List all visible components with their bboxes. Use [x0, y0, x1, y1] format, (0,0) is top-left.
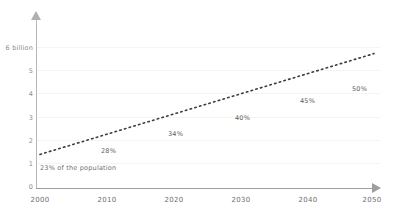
x-tick-2040: 2040 [298, 196, 317, 204]
y-tick-1: 1 [29, 160, 33, 168]
annotation-2030: 40% [235, 114, 250, 122]
plot-area [36, 20, 382, 188]
y-tick-6: 6 billion [6, 44, 33, 52]
y-tick-2: 2 [29, 137, 33, 145]
annotation-2020: 34% [168, 130, 183, 138]
annotation-2050: 50% [352, 85, 367, 93]
y-tick-0: 0 [29, 183, 33, 191]
annotation-2040: 45% [300, 97, 315, 105]
gridline-6 [36, 47, 380, 48]
x-tick-2050: 2050 [362, 196, 381, 204]
y-axis-line [36, 18, 37, 188]
y-tick-5: 5 [29, 67, 33, 75]
gridline-5 [36, 70, 380, 71]
y-axis-tick-labels: 6 billion 5 4 3 2 1 0 [0, 0, 33, 216]
gridline-3 [36, 117, 380, 118]
x-axis-line [36, 188, 374, 189]
x-tick-2030: 2030 [231, 196, 250, 204]
annotation-2010: 28% [101, 147, 116, 155]
y-tick-4: 4 [29, 90, 33, 98]
annotation-2000: 23% of the population [40, 164, 116, 172]
population-growth-chart: 6 billion 5 4 3 2 1 0 2000 2010 2020 203… [0, 0, 394, 216]
x-tick-2010: 2010 [97, 196, 116, 204]
x-tick-2020: 2020 [164, 196, 183, 204]
x-axis-arrow-icon [372, 183, 381, 193]
x-tick-2000: 2000 [30, 196, 49, 204]
gridline-2 [36, 140, 380, 141]
gridline-4 [36, 93, 380, 94]
y-tick-3: 3 [29, 114, 33, 122]
